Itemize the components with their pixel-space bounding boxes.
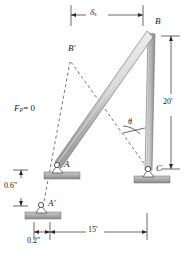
dimension-delta-s: [71, 5, 143, 26]
label-dim-0p2in: 0.2″: [27, 237, 40, 245]
label-force-P: FP= 0: [14, 104, 35, 113]
label-force-value: = 0: [23, 103, 35, 113]
label-delta-s: δs: [90, 8, 97, 17]
theta-angle-marker: [123, 126, 145, 134]
label-point-B: B: [155, 17, 161, 26]
label-point-C: C: [156, 164, 162, 173]
construction-lines: [43, 62, 148, 207]
support-pin-C: [143, 166, 154, 177]
label-delta-subscript: s: [94, 11, 96, 17]
label-dim-15ft: 15′: [88, 226, 98, 234]
member-column-BC: [145, 33, 155, 170]
line-Bprime-C: [71, 62, 148, 169]
label-point-A: A: [64, 160, 70, 169]
label-point-B-prime: B′: [68, 44, 75, 53]
label-dim-20ft: 20′: [163, 98, 173, 106]
label-dim-0p6in: 0.6″: [4, 182, 17, 190]
figure-canvas: δs B B′ A A′ C θ FP= 0 20′ 15′ 0.6″ 0.2″: [0, 0, 191, 256]
label-point-A-prime: A′: [48, 199, 55, 208]
ground-pads: [25, 172, 170, 219]
label-theta: θ: [128, 118, 132, 126]
line-Aprime-Bprime: [43, 62, 70, 207]
diagram-svg: [0, 0, 191, 256]
support-pin-A-prime: [36, 202, 47, 213]
